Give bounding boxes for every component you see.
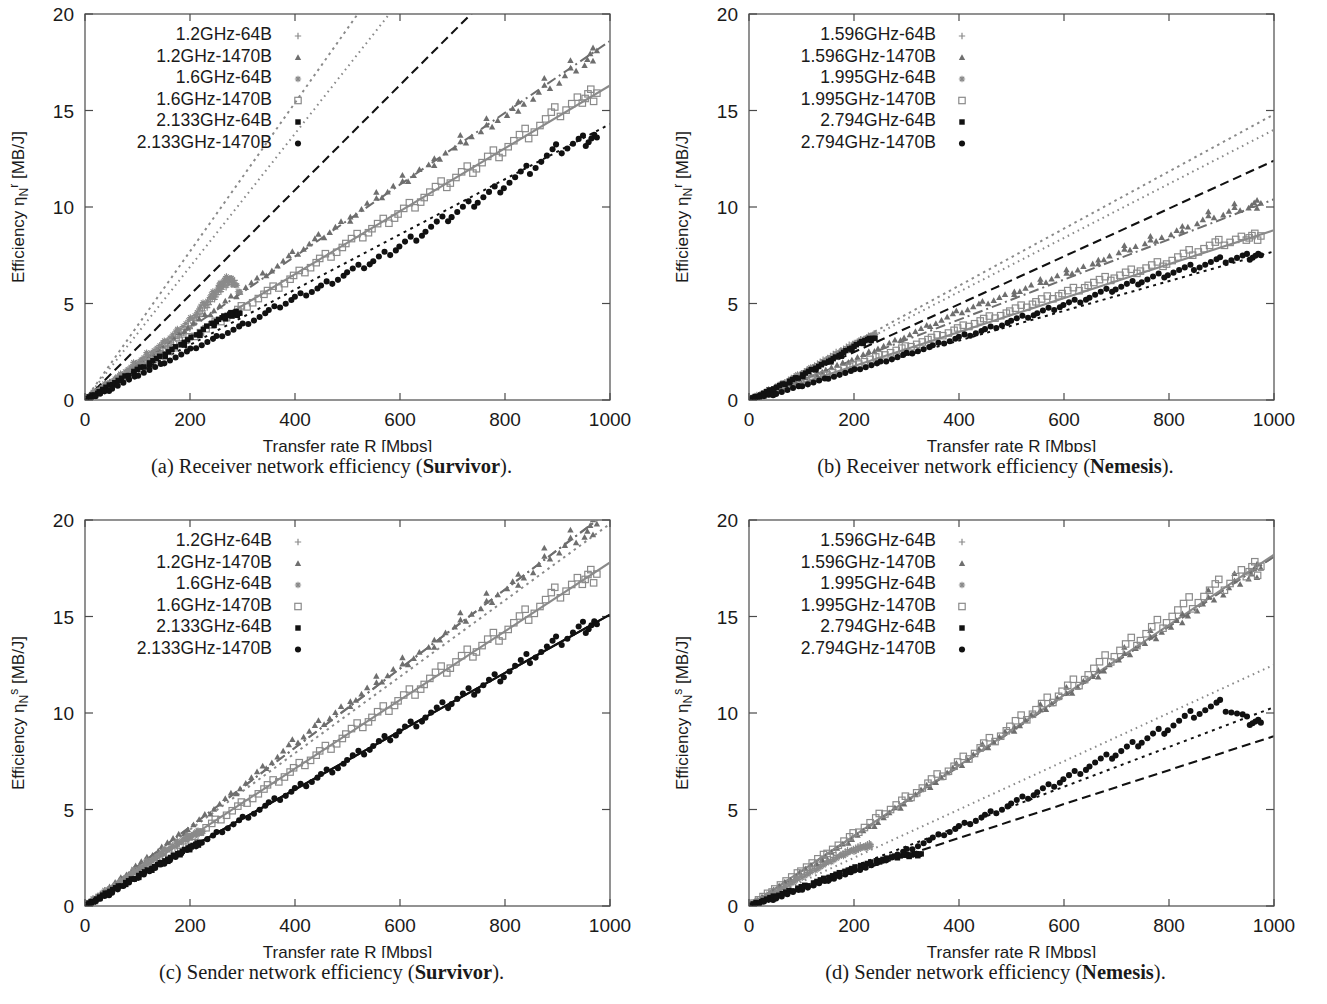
y-tick-label: 20 <box>53 510 74 531</box>
y-tick-label: 20 <box>53 4 74 25</box>
x-tick-label: 0 <box>80 409 91 430</box>
caption-a-suffix: ). <box>500 455 512 477</box>
y-tick-label: 0 <box>727 390 738 411</box>
panel-c: 0200400600800100005101520Transfer rate R… <box>0 506 663 958</box>
legend-label: 1.6GHz-64B <box>176 67 272 87</box>
x-tick-label: 200 <box>174 915 206 936</box>
x-tick-label: 1000 <box>1253 915 1295 936</box>
caption-a: (a) Receiver network efficiency (Survivo… <box>0 455 663 478</box>
y-tick-label: 15 <box>717 101 738 122</box>
caption-c-bold: Survivor <box>415 961 492 983</box>
caption-b-prefix: (b) Receiver network efficiency ( <box>817 455 1090 477</box>
x-tick-label: 200 <box>838 409 870 430</box>
x-tick-label: 600 <box>1048 915 1080 936</box>
panel-d: 0200400600800100005101520Transfer rate R… <box>664 506 1327 958</box>
x-tick-label: 800 <box>1153 409 1185 430</box>
legend-label: 1.596GHz-64B <box>820 24 936 44</box>
series-points <box>88 618 600 907</box>
caption-b-bold: Nemesis <box>1090 455 1162 477</box>
legend-label: 1.2GHz-64B <box>176 24 272 44</box>
legend-label: 2.794GHz-64B <box>820 110 936 130</box>
plot-area <box>748 114 1274 402</box>
x-tick-label: 800 <box>489 409 521 430</box>
x-axis-title: Transfer rate R [Mbps] <box>263 943 432 958</box>
plot-a-canvas: 0200400600800100005101520Transfer rate R… <box>0 0 663 452</box>
y-tick-label: 5 <box>727 800 738 821</box>
x-tick-label: 200 <box>174 409 206 430</box>
caption-d-bold: Nemesis <box>1082 961 1154 983</box>
x-tick-label: 600 <box>384 915 416 936</box>
y-tick-label: 0 <box>727 896 738 917</box>
y-tick-label: 15 <box>53 101 74 122</box>
x-axis-title: Transfer rate R [Mbps] <box>927 943 1096 958</box>
legend-label: 1.596GHz-1470B <box>801 46 936 66</box>
legend-label: 1.6GHz-1470B <box>156 89 272 109</box>
y-tick-label: 5 <box>727 294 738 315</box>
legend-label: 1.6GHz-64B <box>176 573 272 593</box>
y-tick-label: 10 <box>53 703 74 724</box>
y-axis-title: Efficiency ηNr [MB/J] <box>7 131 31 283</box>
x-tick-label: 1000 <box>589 409 631 430</box>
y-tick-label: 20 <box>717 510 738 531</box>
svg-text:Efficiency ηNr [MB/J]: Efficiency ηNr [MB/J] <box>671 131 695 283</box>
y-axis-title: Efficiency ηNs [MB/J] <box>7 636 31 790</box>
y-tick-label: 5 <box>63 800 74 821</box>
panel-a: 0200400600800100005101520Transfer rate R… <box>0 0 663 452</box>
y-axis-title: Efficiency ηNr [MB/J] <box>671 131 695 283</box>
x-tick-label: 800 <box>489 915 521 936</box>
legend: 1.2GHz-64B1.2GHz-1470B1.6GHz-64B1.6GHz-1… <box>137 530 301 658</box>
svg-text:Efficiency ηNr [MB/J]: Efficiency ηNr [MB/J] <box>7 131 31 283</box>
y-tick-label: 0 <box>63 390 74 411</box>
figure-root: 0200400600800100005101520Transfer rate R… <box>0 0 1327 1004</box>
x-tick-label: 400 <box>943 409 975 430</box>
legend: 1.596GHz-64B1.596GHz-1470B1.995GHz-64B1.… <box>801 530 965 658</box>
legend-label: 1.995GHz-64B <box>820 573 936 593</box>
x-tick-label: 0 <box>744 409 755 430</box>
panel-b: 0200400600800100005101520Transfer rate R… <box>664 0 1327 452</box>
series-points <box>88 132 600 402</box>
plot-area <box>84 516 610 907</box>
legend-label: 2.794GHz-1470B <box>801 132 936 152</box>
legend-label: 1.6GHz-1470B <box>156 595 272 615</box>
legend-label: 2.133GHz-64B <box>156 616 272 636</box>
x-axis-title: Transfer rate R [Mbps] <box>927 437 1096 452</box>
legend-label: 1.2GHz-64B <box>176 530 272 550</box>
legend-label: 2.794GHz-64B <box>820 616 936 636</box>
fit-line <box>749 199 1274 400</box>
x-tick-label: 600 <box>1048 409 1080 430</box>
legend-label: 1.2GHz-1470B <box>156 552 272 572</box>
caption-a-bold: Survivor <box>423 455 500 477</box>
legend-label: 2.794GHz-1470B <box>801 638 936 658</box>
svg-text:Efficiency ηNs [MB/J]: Efficiency ηNs [MB/J] <box>7 636 31 790</box>
series-points <box>84 309 243 402</box>
x-tick-label: 800 <box>1153 915 1185 936</box>
y-tick-label: 15 <box>717 607 738 628</box>
y-tick-label: 10 <box>53 197 74 218</box>
x-tick-label: 0 <box>80 915 91 936</box>
legend: 1.596GHz-64B1.596GHz-1470B1.995GHz-64B1.… <box>801 24 965 152</box>
x-tick-label: 400 <box>943 915 975 936</box>
x-tick-label: 400 <box>279 409 311 430</box>
series-points <box>750 197 1264 400</box>
legend-label: 2.133GHz-1470B <box>137 132 272 152</box>
legend-label: 2.133GHz-64B <box>156 110 272 130</box>
caption-d: (d) Sender network efficiency (Nemesis). <box>664 961 1327 984</box>
y-tick-label: 10 <box>717 703 738 724</box>
y-tick-label: 20 <box>717 4 738 25</box>
legend-label: 1.2GHz-1470B <box>156 46 272 66</box>
x-tick-label: 0 <box>744 915 755 936</box>
series-points <box>752 251 1264 402</box>
y-axis-title: Efficiency ηNs [MB/J] <box>671 636 695 790</box>
caption-c-prefix: (c) Sender network efficiency ( <box>159 961 415 983</box>
plot-d-canvas: 0200400600800100005101520Transfer rate R… <box>664 506 1327 958</box>
caption-d-prefix: (d) Sender network efficiency ( <box>825 961 1082 983</box>
y-tick-label: 5 <box>63 294 74 315</box>
x-tick-label: 200 <box>838 915 870 936</box>
legend: 1.2GHz-64B1.2GHz-1470B1.6GHz-64B1.6GHz-1… <box>137 24 301 152</box>
x-tick-label: 1000 <box>1253 409 1295 430</box>
y-tick-label: 0 <box>63 896 74 917</box>
x-axis-title: Transfer rate R [Mbps] <box>263 437 432 452</box>
caption-b: (b) Receiver network efficiency (Nemesis… <box>664 455 1327 478</box>
x-tick-label: 400 <box>279 915 311 936</box>
legend-label: 1.596GHz-64B <box>820 530 936 550</box>
